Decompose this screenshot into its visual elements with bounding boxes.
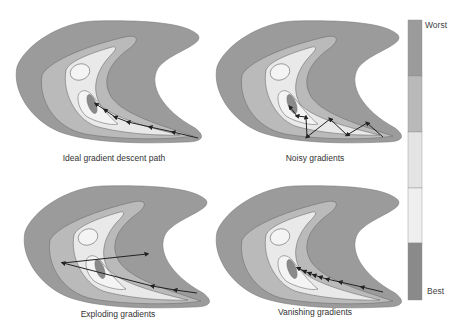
gradient-descent-diagram (0, 0, 468, 331)
colorbar-bottom-label: Best (427, 286, 444, 296)
panel-noisy (216, 21, 401, 143)
colorbar-top-label: Worst (425, 20, 447, 30)
panel-label-ideal: Ideal gradient descent path (63, 153, 166, 163)
panel-label-vanishing: Vanishing gradients (278, 307, 352, 317)
panel-exploding (24, 186, 209, 308)
colorbar (408, 20, 422, 300)
panel-vanishing (216, 186, 401, 308)
panel-label-exploding: Exploding gradients (81, 309, 156, 319)
panel-ideal (16, 21, 201, 143)
panel-label-noisy: Noisy gradients (286, 153, 345, 163)
